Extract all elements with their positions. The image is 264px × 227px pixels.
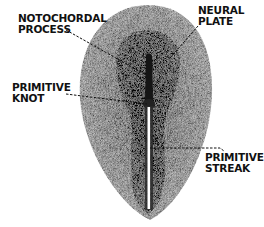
label-line: PROCESS: [18, 24, 107, 35]
primitive-groove: [148, 107, 151, 209]
notochordal-process-rod: [145, 54, 153, 105]
label-line: KNOT: [12, 93, 71, 104]
label-primitive-streak: PRIMITIVE STREAK: [205, 152, 264, 174]
label-primitive-knot: PRIMITIVE KNOT: [12, 82, 71, 104]
label-notochordal-process: NOTOCHORDAL PROCESS: [18, 13, 107, 35]
label-line: STREAK: [205, 163, 264, 174]
embryo-diagram: NOTOCHORDAL PROCESS NEURAL PLATE PRIMITI…: [0, 0, 264, 227]
label-line: PLATE: [198, 16, 244, 27]
label-neural-plate: NEURAL PLATE: [198, 5, 244, 27]
